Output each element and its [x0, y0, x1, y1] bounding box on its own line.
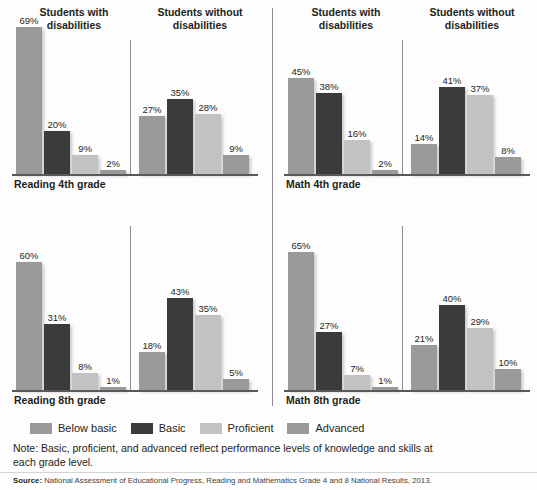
bar-fill — [467, 95, 493, 174]
bar-value-label: 43% — [162, 286, 198, 297]
bar-value-label: 27% — [134, 104, 170, 115]
baseline-axis — [12, 174, 258, 176]
group-divider — [402, 226, 403, 392]
source-text: National Assessment of Educational Progr… — [44, 476, 431, 485]
bar-value-label: 35% — [162, 87, 198, 98]
bar-fill — [223, 155, 249, 174]
column-header-without-disabilities: Students without disabilities — [140, 6, 260, 31]
bar-fill — [195, 315, 221, 390]
source-line: Source: National Assessment of Education… — [13, 476, 432, 485]
bar-fill — [139, 352, 165, 390]
bar-value-label: 2% — [95, 158, 131, 169]
bar-group-with-disabilities: 45% 38% 16% 2% — [288, 38, 398, 174]
bar-value-label: 2% — [367, 158, 403, 169]
panel-math-4th-grade: Students with disabilities Students with… — [278, 6, 536, 196]
bar-value-label: 28% — [190, 102, 226, 113]
legend-swatch-icon — [30, 423, 52, 434]
bar-value-label: 20% — [39, 119, 75, 130]
page-vertical-divider — [272, 8, 273, 406]
panel-reading-8th-grade: 60% 31% 8% 1% 18% — [6, 222, 264, 412]
panel-title: Reading 8th grade — [14, 394, 106, 406]
bar-value-label: 16% — [339, 128, 375, 139]
plot-area: 69% 20% 9% 2% 27% — [6, 40, 264, 176]
chart-legend: Below basic Basic Proficient Advanced — [30, 420, 378, 436]
panel-title: Math 4th grade — [286, 178, 361, 190]
bar-group-without-disabilities: 21% 40% 29% 10% — [411, 224, 526, 390]
bar-fill — [16, 27, 42, 174]
baseline-axis — [284, 174, 530, 176]
bar-value-label: 7% — [339, 363, 375, 374]
baseline-axis — [284, 390, 530, 392]
column-header-without-disabilities: Students without disabilities — [412, 6, 532, 31]
legend-item-basic[interactable]: Basic — [131, 422, 186, 434]
bar-fill — [495, 369, 521, 390]
bar-value-label: 8% — [490, 145, 526, 156]
legend-label: Basic — [159, 422, 186, 434]
source-label: Source: — [13, 476, 42, 485]
source-divider — [0, 472, 537, 473]
legend-swatch-icon — [200, 423, 222, 434]
figure-canvas: Students with disabilities Students with… — [0, 0, 537, 490]
plot-area: 45% 38% 16% 2% 14% — [278, 40, 536, 176]
bar-fill — [411, 345, 437, 390]
chart-note: Note: Basic, proficient, and advanced re… — [13, 441, 443, 469]
panel-column-headers: Students with disabilities Students with… — [278, 6, 536, 40]
bar-value-label: 9% — [67, 143, 103, 154]
bar-value-label: 10% — [490, 357, 526, 368]
group-divider — [130, 40, 131, 176]
bar-value-label: 9% — [218, 143, 254, 154]
bar-value-label: 5% — [218, 367, 254, 378]
panel-title: Math 8th grade — [286, 394, 361, 406]
group-divider — [130, 226, 131, 392]
bar-value-label: 69% — [11, 15, 47, 26]
baseline-axis — [12, 390, 258, 392]
bar-fill — [411, 144, 437, 174]
bar-group-with-disabilities: 60% 31% 8% 1% — [16, 224, 126, 390]
legend-item-below-basic[interactable]: Below basic — [30, 422, 117, 434]
bar-value-label: 35% — [190, 303, 226, 314]
panel-math-8th-grade: 65% 27% 7% 1% 21% — [278, 222, 536, 412]
bar-group-without-disabilities: 14% 41% 37% 8% — [411, 38, 526, 174]
bar-fill — [439, 87, 465, 174]
bar-fill — [139, 116, 165, 174]
bar-group-with-disabilities: 69% 20% 9% 2% — [16, 38, 126, 174]
bar-value-label: 27% — [311, 320, 347, 331]
legend-label: Advanced — [315, 422, 364, 434]
bar-group-with-disabilities: 65% 27% 7% 1% — [288, 224, 398, 390]
bar-fill — [288, 78, 314, 174]
bar-fill — [44, 324, 70, 390]
group-divider — [402, 40, 403, 176]
legend-item-proficient[interactable]: Proficient — [200, 422, 274, 434]
bar-value-label: 1% — [95, 375, 131, 386]
bar-fill — [316, 332, 342, 390]
bar-value-label: 45% — [283, 66, 319, 77]
panel-title: Reading 4th grade — [14, 178, 106, 190]
legend-swatch-icon — [287, 423, 309, 434]
panel-reading-4th-grade: Students with disabilities Students with… — [6, 6, 264, 196]
bar-value-label: 1% — [367, 375, 403, 386]
legend-swatch-icon — [131, 423, 153, 434]
bar-value-label: 40% — [434, 293, 470, 304]
bar-fill — [16, 262, 42, 390]
legend-label: Proficient — [228, 422, 274, 434]
plot-area: 60% 31% 8% 1% 18% — [6, 226, 264, 392]
bar-value-label: 29% — [462, 316, 498, 327]
bar-value-label: 14% — [406, 132, 442, 143]
bar-value-label: 60% — [11, 250, 47, 261]
bar-value-label: 65% — [283, 240, 319, 251]
bar-fill — [223, 379, 249, 390]
legend-label: Below basic — [58, 422, 117, 434]
legend-item-advanced[interactable]: Advanced — [287, 422, 364, 434]
bar-group-without-disabilities: 18% 43% 35% 5% — [139, 224, 254, 390]
bar-value-label: 38% — [311, 81, 347, 92]
bar-value-label: 31% — [39, 312, 75, 323]
column-header-with-disabilities: Students with disabilities — [286, 6, 406, 31]
plot-area: 65% 27% 7% 1% 21% — [278, 226, 536, 392]
bar-fill — [495, 157, 521, 174]
bar-value-label: 8% — [67, 361, 103, 372]
bar-value-label: 18% — [134, 340, 170, 351]
bar-group-without-disabilities: 27% 35% 28% 9% — [139, 38, 254, 174]
bar-value-label: 37% — [462, 83, 498, 94]
bar-value-label: 21% — [406, 333, 442, 344]
